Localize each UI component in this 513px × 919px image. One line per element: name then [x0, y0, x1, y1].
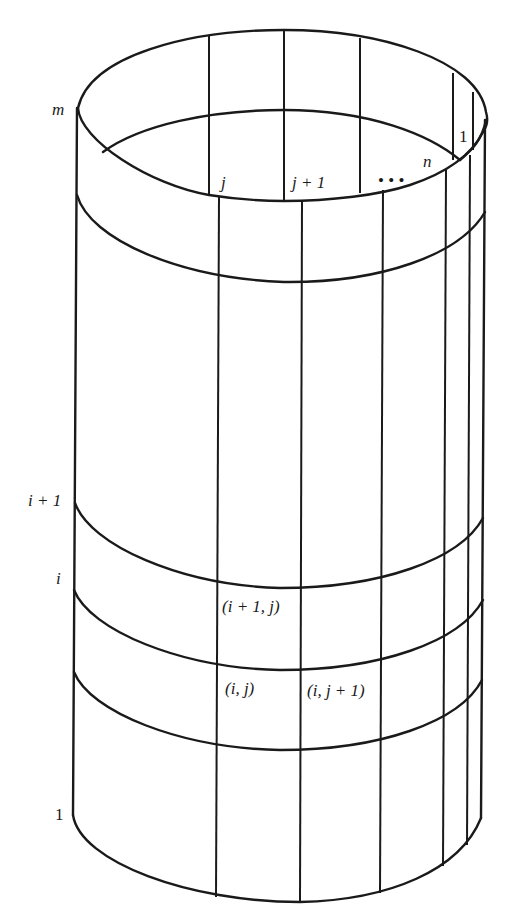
column-label-n: n: [423, 152, 432, 171]
column-line-1: [467, 155, 470, 845]
column-line-j2: [380, 190, 383, 893]
column-line-j: [216, 197, 219, 897]
cylinder-right-wall: [481, 120, 485, 818]
row-label-i-plus-1: i + 1: [28, 491, 61, 510]
top-inner-ellipse: [103, 110, 460, 160]
column-line-j1: [300, 201, 302, 902]
column-line-n: [443, 170, 446, 866]
ring-bottom: [73, 815, 481, 902]
cell-label-i-j: (i, j): [225, 679, 255, 698]
top-outer-ellipse: [78, 30, 487, 132]
column-label-j-plus-1: j + 1: [290, 173, 325, 192]
ring-i-minus-1: [74, 672, 482, 750]
top-rim: [78, 30, 487, 201]
cell-label-i-plus-1-j: (i + 1, j): [222, 597, 280, 616]
row-label-i: i: [56, 569, 61, 588]
ring-m-bottom: [77, 195, 485, 282]
column-label-ellipsis: • • •: [378, 171, 404, 190]
cylinder-grid-diagram: m i + 1 i 1 j j + 1 • • • n 1 (i + 1, j)…: [0, 0, 513, 919]
cylinder-left-wall: [73, 108, 77, 815]
column-label-j: j: [219, 173, 226, 192]
row-label-1: 1: [55, 805, 64, 824]
ring-bands: [73, 195, 485, 902]
row-label-m: m: [52, 100, 64, 119]
ring-i-plus-1: [75, 503, 483, 588]
column-label-1: 1: [459, 127, 468, 146]
cell-label-i-j-plus-1: (i, j + 1): [307, 681, 365, 700]
front-column-lines: [216, 155, 470, 902]
